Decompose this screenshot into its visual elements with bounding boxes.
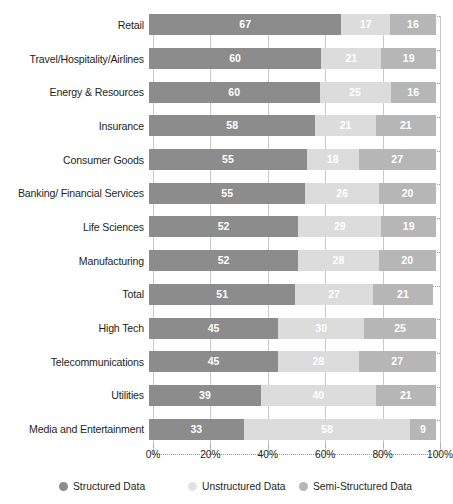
bar-value-label: 67 <box>239 14 251 35</box>
bar-row: Energy & Resources602516 <box>0 75 453 109</box>
bar-segment: 9 <box>410 419 436 440</box>
bar-segment: 21 <box>315 115 375 136</box>
bar-segment: 25 <box>364 318 436 339</box>
category-label: High Tech <box>0 322 149 334</box>
bar-segment: 21 <box>321 48 381 69</box>
category-label: Total <box>0 288 149 300</box>
stacked-bar: 452827 <box>149 351 436 372</box>
category-label: Insurance <box>0 120 149 132</box>
bar-value-label: 52 <box>218 250 230 271</box>
bar-value-label: 51 <box>216 284 228 305</box>
bar-value-label: 55 <box>222 149 234 170</box>
bar-segment: 19 <box>381 216 436 237</box>
bar-value-label: 17 <box>360 14 372 35</box>
bar-row: Total512721 <box>0 278 453 312</box>
bar-value-label: 29 <box>334 216 346 237</box>
bar-value-label: 45 <box>208 351 220 372</box>
bar-value-label: 58 <box>321 419 333 440</box>
bar-row: High Tech453025 <box>0 311 453 345</box>
bar-segment: 55 <box>149 149 307 170</box>
bar-row: Consumer Goods551827 <box>0 143 453 177</box>
bar-row: Life Sciences522919 <box>0 210 453 244</box>
stacked-bar: 394021 <box>149 385 436 406</box>
axis-tick-label: 80% <box>372 449 392 460</box>
stacked-bar: 582121 <box>149 115 436 136</box>
bar-value-label: 27 <box>391 149 403 170</box>
bar-rows: Retail671716Travel/Hospitality/Airlines6… <box>0 8 453 446</box>
bar-segment: 21 <box>373 284 433 305</box>
legend-label: Semi-Structured Data <box>313 481 412 492</box>
bar-segment: 60 <box>149 48 321 69</box>
bar-segment: 16 <box>390 14 436 35</box>
bar-segment: 55 <box>149 183 305 204</box>
bar-value-label: 39 <box>199 385 211 406</box>
bar-value-label: 20 <box>401 250 413 271</box>
bar-row: Telecommunications452827 <box>0 345 453 379</box>
bar-value-label: 21 <box>400 115 412 136</box>
bar-segment: 20 <box>379 183 436 204</box>
bar-value-label: 27 <box>328 284 340 305</box>
category-label: Manufacturing <box>0 255 149 267</box>
bar-value-label: 27 <box>391 351 403 372</box>
bar-row: Utilities394021 <box>0 379 453 413</box>
bar-segment: 60 <box>149 82 320 103</box>
legend-item[interactable]: Unstructured Data <box>188 481 286 492</box>
stacked-bar: 602119 <box>149 48 436 69</box>
bar-segment: 40 <box>261 385 376 406</box>
category-label: Life Sciences <box>0 221 149 233</box>
bar-segment: 33 <box>149 419 244 440</box>
legend-swatch-icon <box>188 482 197 491</box>
bar-segment: 27 <box>359 351 436 372</box>
bar-segment: 28 <box>298 250 378 271</box>
category-label: Consumer Goods <box>0 154 149 166</box>
stacked-bar: 671716 <box>149 14 436 35</box>
bar-value-label: 9 <box>420 419 426 440</box>
bar-segment: 45 <box>149 318 278 339</box>
bar-value-label: 16 <box>407 14 419 35</box>
bar-segment: 19 <box>381 48 436 69</box>
axis-tick-mark <box>153 443 154 448</box>
category-label: Media and Entertainment <box>0 423 149 435</box>
legend-label: Structured Data <box>73 481 145 492</box>
bar-value-label: 16 <box>407 82 419 103</box>
legend-item[interactable]: Semi-Structured Data <box>299 481 412 492</box>
bar-segment: 51 <box>149 284 295 305</box>
bar-segment: 25 <box>320 82 391 103</box>
bar-value-label: 19 <box>403 48 415 69</box>
bar-value-label: 30 <box>315 318 327 339</box>
legend-swatch-icon <box>59 482 68 491</box>
category-label: Telecommunications <box>0 356 149 368</box>
chart-legend: Structured DataUnstructured DataSemi-Str… <box>0 476 453 496</box>
bar-value-label: 21 <box>340 115 352 136</box>
bar-value-label: 19 <box>403 216 415 237</box>
axis-tick-mark <box>210 443 211 448</box>
bar-value-label: 18 <box>327 149 339 170</box>
bar-segment: 58 <box>149 115 315 136</box>
stacked-bar: 552620 <box>149 183 436 204</box>
axis-tick-mark <box>268 443 269 448</box>
stacked-bar: 522820 <box>149 250 436 271</box>
axis-tick-label: 0% <box>146 449 161 460</box>
x-axis: 0%20%40%60%80%100% <box>0 449 453 469</box>
bar-value-label: 21 <box>397 284 409 305</box>
bar-row: Media and Entertainment33589 <box>0 412 453 446</box>
bar-row: Retail671716 <box>0 8 453 42</box>
bar-segment: 67 <box>149 14 341 35</box>
bar-value-label: 25 <box>349 82 361 103</box>
stacked-bar: 551827 <box>149 149 436 170</box>
bar-segment: 17 <box>341 14 390 35</box>
bar-segment: 18 <box>307 149 359 170</box>
bar-value-label: 26 <box>336 183 348 204</box>
legend-label: Unstructured Data <box>202 481 286 492</box>
bar-segment: 30 <box>278 318 364 339</box>
legend-item[interactable]: Structured Data <box>59 481 145 492</box>
bar-segment: 27 <box>359 149 436 170</box>
bar-segment: 16 <box>391 82 436 103</box>
stacked-bar: 453025 <box>149 318 436 339</box>
category-label: Utilities <box>0 389 149 401</box>
stacked-bar: 522919 <box>149 216 436 237</box>
axis-tick-mark <box>440 443 441 448</box>
bar-value-label: 33 <box>190 419 202 440</box>
axis-tick-label: 100% <box>427 449 453 460</box>
axis-tick-mark <box>383 443 384 448</box>
